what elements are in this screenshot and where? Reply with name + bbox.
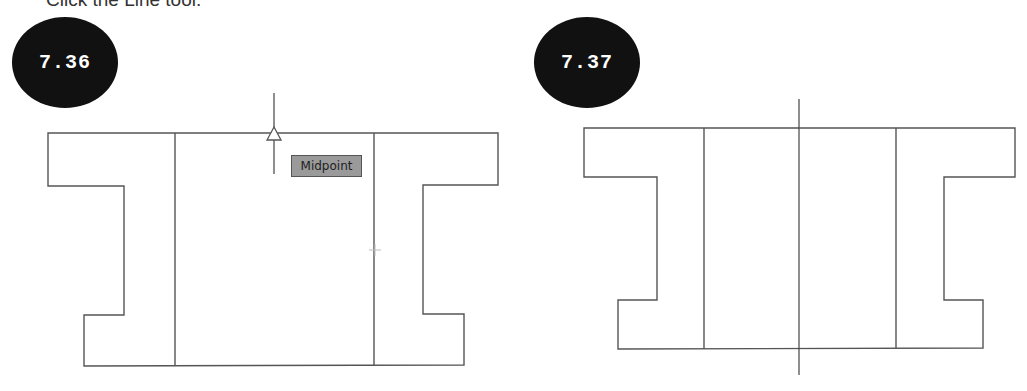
tooltip-label: Midpoint	[301, 159, 353, 173]
drawing-canvas[interactable]	[0, 0, 1027, 391]
left-i-beam-outline[interactable]	[48, 133, 498, 366]
right-figure	[584, 99, 1015, 375]
small-crosshair-icon	[369, 244, 381, 256]
midpoint-tooltip: Midpoint	[291, 155, 362, 177]
left-figure	[48, 93, 498, 366]
